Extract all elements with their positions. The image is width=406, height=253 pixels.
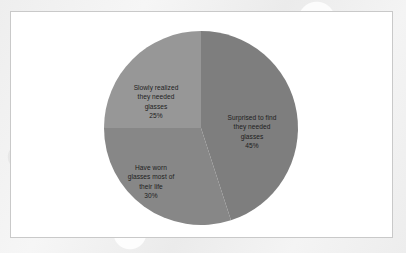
pie-slice-slowly-realized[interactable] [104, 31, 201, 128]
pie-slices [104, 31, 298, 225]
chart-frame: Slowly realized they needed glasses 25% … [10, 11, 393, 238]
pie-chart: Slowly realized they needed glasses 25% … [11, 12, 394, 239]
pie-chart-svg [11, 12, 394, 239]
